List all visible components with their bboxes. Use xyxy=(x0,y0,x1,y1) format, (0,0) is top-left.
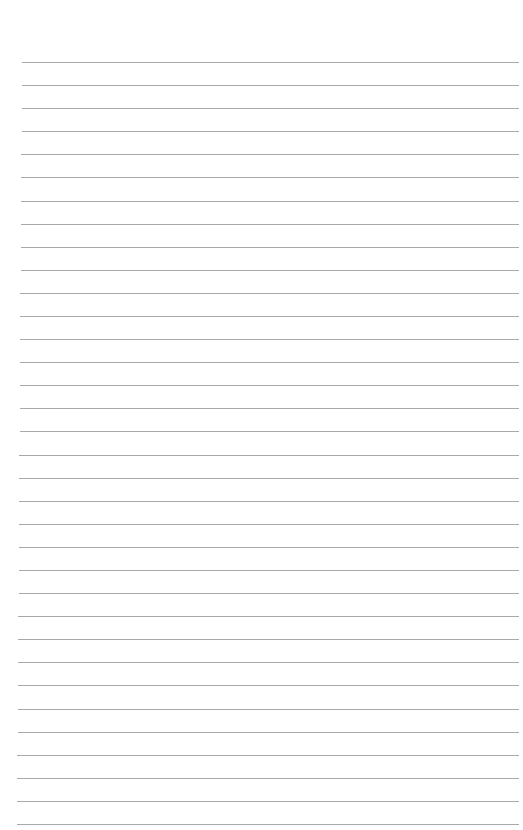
ruled-line xyxy=(18,639,519,640)
ruled-line xyxy=(20,316,519,317)
ruled-line xyxy=(19,547,519,548)
ruled-line xyxy=(21,270,519,271)
ruled-line xyxy=(18,662,519,663)
ruled-line xyxy=(17,801,519,802)
ruled-line xyxy=(19,478,519,479)
ruled-line xyxy=(18,709,519,710)
ruled-line xyxy=(22,131,519,132)
ruled-line xyxy=(21,177,519,178)
ruled-line xyxy=(20,339,519,340)
ruled-line xyxy=(19,455,519,456)
ruled-line xyxy=(20,431,519,432)
ruled-line xyxy=(22,62,519,63)
ruled-line xyxy=(20,408,519,409)
ruled-line xyxy=(17,824,519,825)
ruled-line xyxy=(21,154,519,155)
ruled-line xyxy=(22,85,519,86)
ruled-line xyxy=(19,501,519,502)
ruled-line xyxy=(18,685,519,686)
ruled-line xyxy=(21,201,519,202)
ruled-line xyxy=(19,570,519,571)
ruled-line xyxy=(20,362,519,363)
ruled-line xyxy=(21,224,519,225)
ruled-line xyxy=(19,593,519,594)
ruled-line xyxy=(21,247,519,248)
ruled-line xyxy=(19,524,519,525)
ruled-line xyxy=(18,616,519,617)
ruled-line xyxy=(18,732,519,733)
ruled-line xyxy=(20,293,519,294)
ruled-line xyxy=(22,108,519,109)
lined-paper-page xyxy=(0,0,523,830)
ruled-line xyxy=(20,385,519,386)
ruled-line xyxy=(17,778,519,779)
ruled-line xyxy=(17,755,519,756)
